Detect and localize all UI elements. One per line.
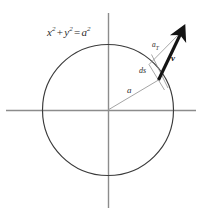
circle-equation-label: x2+y2=a2 (47, 26, 91, 38)
equation-plus: + (56, 26, 64, 38)
radius-line (108, 80, 159, 110)
diagram-canvas (0, 0, 209, 212)
velocity-label: v (171, 54, 175, 63)
construction-line-lower (149, 65, 165, 91)
circular-motion-figure: x2+y2=a2 a ds aT v (0, 0, 209, 212)
velocity-vector-arrow (159, 33, 182, 80)
equation-a-exponent: 2 (87, 25, 91, 33)
tangential-acceleration-subscript: T (156, 45, 159, 51)
arc-element-label: ds (139, 67, 146, 75)
radius-label: a (127, 86, 132, 95)
tangential-acceleration-label: aT (152, 41, 159, 51)
axes-group (6, 13, 196, 208)
